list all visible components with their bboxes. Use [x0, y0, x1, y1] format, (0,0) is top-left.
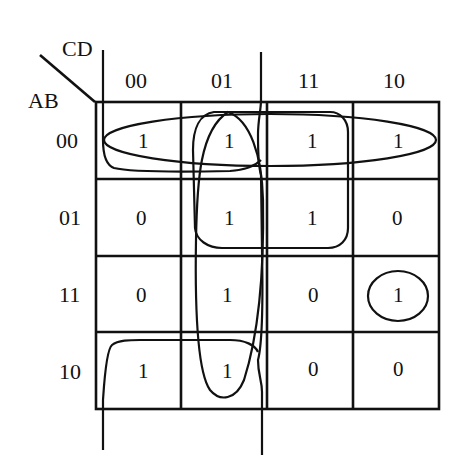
col-variable-label: CD — [62, 36, 93, 61]
row-header-11: 11 — [59, 282, 80, 307]
cell-10-01: 1 — [222, 359, 233, 383]
cell-10-00: 1 — [138, 359, 149, 383]
col-header-11: 11 — [298, 68, 319, 93]
row-variable-label: AB — [28, 88, 59, 113]
cell-01-10: 0 — [392, 206, 403, 230]
cell-00-00: 1 — [138, 129, 149, 153]
cell-01-11: 1 — [307, 206, 318, 230]
cell-01-00: 0 — [136, 206, 147, 230]
cell-11-10: 1 — [393, 283, 404, 307]
cell-11-00: 0 — [136, 283, 147, 307]
cell-11-11: 0 — [308, 283, 319, 307]
row-header-00: 00 — [56, 128, 78, 153]
row-header-10: 10 — [59, 359, 81, 384]
cell-10-11: 0 — [308, 357, 319, 381]
col-header-00: 00 — [125, 68, 147, 93]
cell-00-01: 1 — [224, 129, 235, 153]
col-header-01: 01 — [211, 68, 233, 93]
row-00-group-loop — [104, 114, 436, 166]
cell-01-01: 1 — [224, 206, 235, 230]
karnaugh-map: CD AB 00 01 11 10 00 01 11 10 1 1 1 1 0 … — [0, 0, 462, 470]
cell-11-01: 1 — [222, 283, 233, 307]
cell-00-11: 1 — [307, 129, 318, 153]
cell-00-10: 1 — [393, 129, 404, 153]
row-header-01: 01 — [59, 205, 81, 230]
cell-10-10: 0 — [393, 357, 404, 381]
col-header-10: 10 — [383, 68, 405, 93]
